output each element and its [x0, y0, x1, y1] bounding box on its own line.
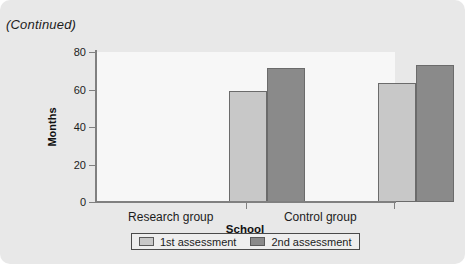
x-tick-mark: [246, 203, 247, 209]
y-tick-mark: [89, 165, 95, 166]
bar-1st-assessment: [378, 83, 416, 202]
legend-label-2nd-assessment: 2nd assessment: [271, 236, 351, 248]
bar-1st-assessment: [229, 91, 267, 202]
y-tick-mark: [89, 202, 95, 203]
y-tick-label: 60: [60, 84, 86, 96]
bar-2nd-assessment: [267, 68, 305, 202]
legend-item: 2nd assessment: [250, 236, 351, 248]
y-tick-label: 0: [60, 196, 86, 208]
x-category-label: Control group: [284, 210, 357, 224]
bar-chart: Months School 020406080Research groupCon…: [0, 0, 465, 264]
legend-item: 1st assessment: [139, 236, 236, 248]
y-tick-mark: [89, 52, 95, 53]
x-tick-mark: [394, 203, 395, 209]
y-tick-mark: [89, 127, 95, 128]
bar-2nd-assessment: [416, 65, 454, 202]
y-axis-title: Months: [46, 107, 58, 146]
y-tick-mark: [89, 90, 95, 91]
figure-page: (Continued) Months School 020406080Resea…: [0, 0, 465, 264]
chart-legend: 1st assessment 2nd assessment: [131, 233, 360, 250]
y-tick-label: 80: [60, 46, 86, 58]
y-tick-label: 20: [60, 159, 86, 171]
y-tick-label: 40: [60, 121, 86, 133]
plot-area: [96, 52, 395, 202]
x-category-label: Research group: [128, 210, 213, 224]
legend-swatch-2nd-assessment: [250, 237, 265, 246]
y-axis-line: [95, 50, 97, 203]
legend-swatch-1st-assessment: [139, 237, 154, 246]
legend-label-1st-assessment: 1st assessment: [160, 236, 236, 248]
